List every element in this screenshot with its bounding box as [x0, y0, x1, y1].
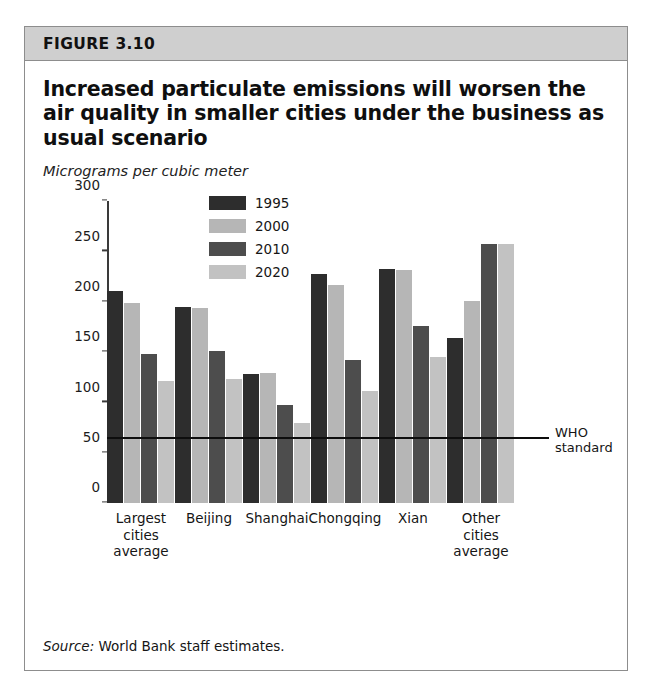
bar-2000	[396, 270, 413, 504]
bar-2010	[413, 326, 430, 503]
source-label: Source:	[43, 638, 94, 654]
plot-area: 050100150200250300 Largest cities averag…	[107, 201, 503, 503]
legend-swatch	[209, 219, 246, 233]
chart-title: Increased particulate emissions will wor…	[43, 77, 609, 150]
who-standard-line	[107, 437, 549, 439]
bar-2000	[328, 285, 345, 503]
who-standard-label: WHO standard	[555, 425, 613, 456]
legend-label: 2010	[255, 241, 289, 257]
y-axis-tick-label: 300	[74, 177, 100, 193]
bar-1995	[175, 307, 192, 503]
x-axis-category-label: Other cities average	[438, 510, 524, 559]
bar-2010	[345, 360, 362, 503]
bar-2010	[277, 405, 294, 504]
figure-body: Increased particulate emissions will wor…	[25, 61, 627, 587]
bar-2020	[294, 423, 311, 504]
y-axis-tick-label: 0	[91, 479, 100, 495]
bar-group: Chongqing	[311, 201, 379, 503]
bar-2020	[362, 391, 379, 503]
bar-2000	[124, 303, 141, 503]
bar-1995	[311, 274, 328, 504]
y-axis-tick-label: 50	[83, 429, 100, 445]
bar-1995	[379, 269, 396, 504]
bar-2000	[192, 308, 209, 503]
y-axis-tick-label: 250	[74, 228, 100, 244]
chart-legend: 1995200020102020	[209, 195, 289, 287]
bar-2020	[430, 357, 447, 503]
legend-swatch	[209, 242, 246, 256]
figure-number-band: FIGURE 3.10	[25, 27, 627, 61]
bar-1995	[447, 338, 464, 503]
y-axis-tick-label: 200	[74, 278, 100, 294]
legend-label: 1995	[255, 195, 289, 211]
legend-label: 2020	[255, 264, 289, 280]
figure-number-label: FIGURE 3.10	[43, 35, 155, 53]
bar-2020	[498, 244, 515, 503]
y-axis-tick-label: 100	[74, 379, 100, 395]
legend-item: 2010	[209, 241, 289, 257]
legend-item: 1995	[209, 195, 289, 211]
source-text: World Bank staff estimates.	[94, 638, 284, 654]
bar-groups: Largest cities averageBeijingShanghaiCho…	[107, 201, 503, 503]
bar-2020	[226, 379, 243, 503]
bar-group: Other cities average	[447, 201, 515, 503]
legend-label: 2000	[255, 218, 289, 234]
bar-2010	[481, 244, 498, 503]
bar-group: Largest cities average	[107, 201, 175, 503]
bar-2010	[141, 354, 158, 503]
figure-card: FIGURE 3.10 Increased particulate emissi…	[24, 26, 628, 671]
legend-swatch	[209, 265, 246, 279]
bar-group: Xian	[379, 201, 447, 503]
legend-item: 2020	[209, 264, 289, 280]
bar-2020	[158, 381, 175, 503]
legend-swatch	[209, 196, 246, 210]
bar-1995	[243, 374, 260, 503]
legend-item: 2000	[209, 218, 289, 234]
bar-1995	[107, 291, 124, 503]
chart-subtitle: Micrograms per cubic meter	[43, 163, 609, 179]
y-axis-tick-label: 150	[74, 328, 100, 344]
bar-2010	[209, 351, 226, 503]
bar-2000	[464, 301, 481, 503]
source-note: Source: World Bank staff estimates.	[43, 638, 285, 654]
chart-plot: 050100150200250300 Largest cities averag…	[43, 187, 611, 587]
